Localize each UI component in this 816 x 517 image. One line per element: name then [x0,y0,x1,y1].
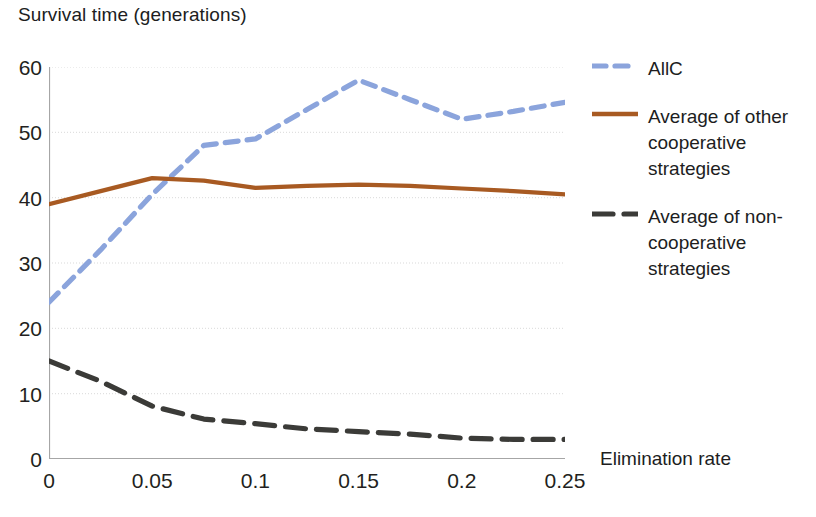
legend-label: Average of other cooperative strategies [648,104,808,182]
y-axis-tick-label: 60 [2,57,42,78]
y-axis-tick-labels: 0102030405060 [0,67,42,459]
y-axis-tick-label: 30 [2,253,42,274]
x-axis-tick-labels: 00.050.10.150.20.25 [49,470,565,504]
plot-canvas [49,67,565,459]
y-axis-tick-label: 10 [2,383,42,404]
x-axis-tick-label: 0 [43,470,55,491]
plot-area [49,67,565,459]
y-axis-tick-label: 50 [2,122,42,143]
legend-entry: Average of other cooperative strategies [592,104,816,182]
y-axis-tick-label: 20 [2,318,42,339]
legend-swatch-icon [592,106,638,126]
legend-label: Average of non-cooperative strategies [648,204,808,282]
x-axis-tick-label: 0.2 [447,470,476,491]
series-line-3 [49,361,565,439]
legend-entry: Average of non-cooperative strategies [592,204,816,282]
y-axis-tick-label: 40 [2,187,42,208]
legend-label: AllC [648,56,683,82]
chart-title: Survival time (generations) [18,4,247,26]
x-axis-tick-label: 0.15 [338,470,379,491]
x-axis-tick-label: 0.1 [241,470,270,491]
legend-swatch-icon [592,58,638,78]
legend-entry: AllC [592,56,816,82]
chart-legend: AllCAverage of other cooperative strateg… [592,56,816,304]
legend-swatch-icon [592,206,638,226]
series-line-2 [49,178,565,204]
x-axis-tick-label: 0.25 [545,470,586,491]
y-axis-tick-label: 0 [2,449,42,470]
x-axis-tick-label: 0.05 [132,470,173,491]
x-axis-title: Elimination rate [600,448,731,470]
